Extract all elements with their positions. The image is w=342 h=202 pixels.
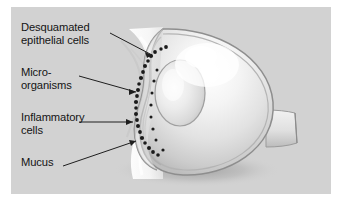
eye-diagram-figure: Desquamated epithelial cells Micro- orga… (0, 0, 342, 202)
globe-specular-core (185, 46, 217, 68)
callout-micro-organisms: Micro- organisms (21, 66, 72, 91)
callout-mucus: Mucus (21, 156, 53, 169)
illustration-panel: Desquamated epithelial cells Micro- orga… (11, 7, 331, 194)
callout-desquamated-epithelial-cells: Desquamated epithelial cells (21, 21, 90, 46)
callout-inflammatory-cells: Inflammatory cells (21, 111, 84, 136)
